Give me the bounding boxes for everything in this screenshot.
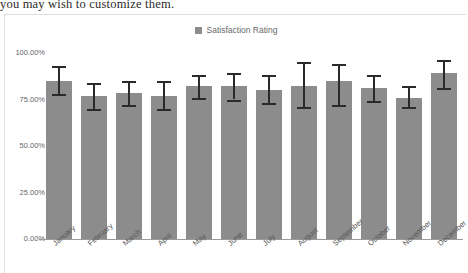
error-bar-cap-bottom bbox=[367, 101, 381, 103]
error-bar-cap-top bbox=[437, 60, 451, 62]
error-bar-cap-top bbox=[402, 86, 416, 88]
bar-slot bbox=[116, 15, 142, 239]
x-axis-labels: JanuaryFebruaryMarchAprilMayJuneJulyAugu… bbox=[46, 241, 466, 273]
bar[interactable] bbox=[361, 88, 387, 239]
error-bar-cap-top bbox=[192, 75, 206, 77]
x-axis-line bbox=[39, 239, 463, 240]
y-axis-tick-label: 25.00% bbox=[20, 189, 45, 197]
error-bar-line bbox=[443, 60, 445, 88]
y-axis-tick-label: 50.00% bbox=[20, 142, 45, 150]
bar-chart-plot: 100.00%75.00%50.00%25.00%0.00% JanuaryFe… bbox=[5, 15, 467, 273]
bar[interactable] bbox=[151, 96, 177, 239]
y-axis-tick-label: 100.00% bbox=[15, 49, 45, 57]
error-bar-cap-top bbox=[157, 81, 171, 83]
error-bar-line bbox=[233, 73, 235, 99]
y-axis: 100.00%75.00%50.00%25.00%0.00% bbox=[5, 15, 49, 273]
error-bar-line bbox=[268, 75, 270, 103]
bar-slot bbox=[291, 15, 317, 239]
bar-slot bbox=[361, 15, 387, 239]
error-bar-line bbox=[338, 64, 340, 105]
bar[interactable] bbox=[116, 93, 142, 239]
error-bar-line bbox=[303, 62, 305, 107]
error-bar-cap-top bbox=[297, 62, 311, 64]
error-bar-cap-bottom bbox=[262, 103, 276, 105]
error-bar-cap-bottom bbox=[332, 105, 346, 107]
error-bar-line bbox=[93, 83, 95, 109]
bar-slot bbox=[396, 15, 422, 239]
bar-slot bbox=[186, 15, 212, 239]
error-bar-line bbox=[163, 81, 165, 109]
document-trailing-text: you may wish to customize them. bbox=[0, 0, 300, 11]
error-bar-cap-top bbox=[52, 66, 66, 68]
bar-slot bbox=[151, 15, 177, 239]
screenshot-root: you may wish to customize them. Satisfac… bbox=[0, 0, 468, 273]
chart-card: Satisfaction Rating 100.00%75.00%50.00%2… bbox=[4, 14, 466, 273]
error-bar-cap-bottom bbox=[157, 109, 171, 111]
error-bar-cap-bottom bbox=[122, 105, 136, 107]
bar-slot bbox=[46, 15, 72, 239]
error-bar-line bbox=[198, 75, 200, 97]
bar[interactable] bbox=[81, 96, 107, 239]
bar[interactable] bbox=[291, 86, 317, 239]
error-bar-cap-top bbox=[367, 75, 381, 77]
error-bar-cap-top bbox=[87, 83, 101, 85]
bar[interactable] bbox=[256, 90, 282, 239]
error-bar-cap-bottom bbox=[52, 94, 66, 96]
bar[interactable] bbox=[431, 73, 457, 239]
error-bar-cap-top bbox=[122, 81, 136, 83]
bar[interactable] bbox=[221, 86, 247, 239]
error-bar-cap-bottom bbox=[437, 88, 451, 90]
error-bar-cap-bottom bbox=[87, 109, 101, 111]
error-bar-cap-top bbox=[332, 64, 346, 66]
error-bar-cap-bottom bbox=[402, 107, 416, 109]
bar-slot bbox=[256, 15, 282, 239]
y-axis-tick-label: 75.00% bbox=[20, 96, 45, 104]
bar[interactable] bbox=[186, 86, 212, 239]
bar-slot bbox=[221, 15, 247, 239]
bar-slot bbox=[81, 15, 107, 239]
error-bar-line bbox=[373, 75, 375, 101]
error-bar-cap-top bbox=[262, 75, 276, 77]
bar[interactable] bbox=[396, 98, 422, 239]
error-bar-cap-bottom bbox=[227, 100, 241, 102]
error-bar-cap-top bbox=[227, 73, 241, 75]
error-bar-cap-bottom bbox=[297, 107, 311, 109]
bar-slot bbox=[326, 15, 352, 239]
error-bar-line bbox=[58, 66, 60, 94]
bar-series-group bbox=[46, 15, 466, 239]
bar[interactable] bbox=[46, 81, 72, 239]
bar-slot bbox=[431, 15, 457, 239]
error-bar-line bbox=[408, 86, 410, 106]
error-bar-line bbox=[128, 81, 130, 105]
error-bar-cap-bottom bbox=[192, 98, 206, 100]
